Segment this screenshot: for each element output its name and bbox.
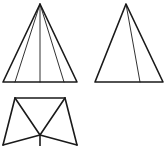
diagram-canvas (0, 0, 164, 146)
front-view-inner-line-left (15, 4, 40, 82)
top-view-diagonal-right (40, 98, 65, 135)
top-view-left-edge (3, 98, 15, 145)
top-view-right-edge (65, 98, 77, 145)
top-view-figure (3, 98, 77, 146)
top-view-lower-left (3, 135, 40, 145)
front-view-figure (3, 4, 77, 82)
front-view-inner-line-right (40, 4, 64, 82)
side-view-figure (95, 4, 163, 82)
side-view-inner-line (126, 4, 140, 82)
top-view-lower-right (40, 135, 77, 145)
top-view-diagonal-left (15, 98, 40, 135)
side-view-outline (95, 4, 163, 82)
